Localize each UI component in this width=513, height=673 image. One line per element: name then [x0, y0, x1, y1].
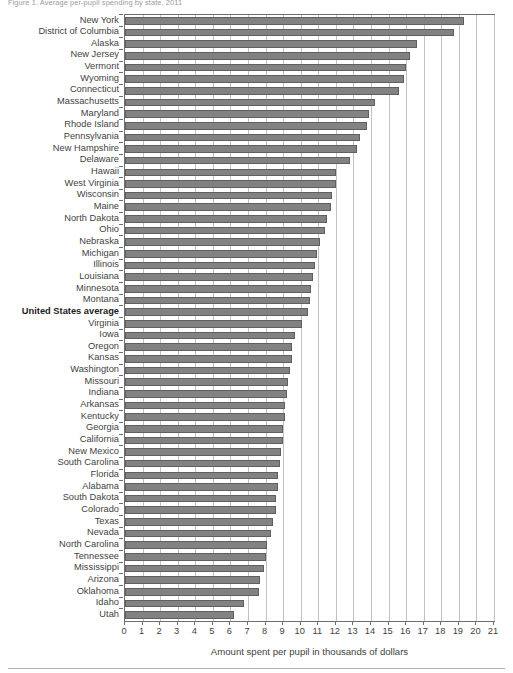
category-tick [119, 37, 123, 38]
x-tick-label: 11 [308, 626, 326, 637]
x-tick-mark [142, 621, 143, 625]
bar [125, 227, 325, 235]
category-tick [119, 550, 123, 551]
x-tick-label: 19 [449, 626, 467, 637]
category-label: New York [80, 15, 119, 25]
x-tick-mark [352, 621, 353, 625]
category-label: Maryland [81, 108, 119, 118]
x-tick-mark [194, 621, 195, 625]
category-label: Michigan [82, 248, 119, 258]
bar [125, 425, 283, 433]
category-tick [119, 503, 123, 504]
bar [125, 29, 454, 37]
category-label: South Carolina [57, 457, 119, 467]
bar [125, 518, 273, 526]
category-tick [119, 434, 123, 435]
category-label: Kansas [88, 352, 119, 362]
x-tick-mark [229, 621, 230, 625]
category-tick [119, 177, 123, 178]
category-tick [119, 399, 123, 400]
category-label: Kentucky [81, 411, 119, 421]
category-label: New Jersey [70, 49, 119, 59]
category-label: New Hampshire [53, 143, 119, 153]
x-tick-label: 6 [220, 626, 238, 637]
category-tick [119, 235, 123, 236]
bar [125, 588, 259, 596]
x-tick-mark [423, 621, 424, 625]
gridline [476, 15, 477, 621]
category-tick [119, 142, 123, 143]
x-axis-title: Amount spent per pupil in thousands of d… [124, 646, 495, 657]
bar [125, 273, 313, 281]
bar [125, 297, 310, 305]
bottom-divider [8, 668, 505, 669]
category-tick [119, 282, 123, 283]
bar [125, 332, 295, 340]
category-tick [119, 469, 123, 470]
category-tick [119, 84, 123, 85]
category-tick [119, 422, 123, 423]
category-tick [119, 480, 123, 481]
category-label: Arizona [87, 574, 119, 584]
bar [125, 99, 375, 107]
category-tick [119, 352, 123, 353]
category-tick [119, 26, 123, 27]
category-tick [119, 72, 123, 73]
category-label: Connecticut [70, 84, 119, 94]
category-label: Nebraska [79, 236, 119, 246]
category-tick [119, 608, 123, 609]
category-label: Washington [70, 364, 119, 374]
bar [125, 390, 287, 398]
category-label: Alabama [82, 481, 119, 491]
x-tick-label: 8 [256, 626, 274, 637]
category-label: Florida [91, 469, 119, 479]
x-tick-mark [388, 621, 389, 625]
x-tick-label: 20 [466, 626, 484, 637]
bar [125, 553, 266, 561]
plot-area [124, 14, 495, 622]
category-tick [119, 375, 123, 376]
category-tick [119, 96, 123, 97]
category-tick [119, 597, 123, 598]
bar [125, 355, 292, 363]
bar [125, 343, 292, 351]
category-label: Georgia [86, 422, 119, 432]
category-label: Texas [95, 516, 119, 526]
category-label: District of Columbia [38, 26, 119, 36]
x-axis: 0123456789101112131415161718192021 [124, 621, 495, 639]
x-tick-label: 7 [238, 626, 256, 637]
category-label: Massachusetts [57, 96, 119, 106]
bar [125, 238, 320, 246]
x-tick-mark [124, 621, 125, 625]
category-tick [119, 49, 123, 50]
x-tick-mark [370, 621, 371, 625]
category-label: Ohio [99, 224, 119, 234]
category-label: Virginia [88, 318, 119, 328]
category-tick [119, 340, 123, 341]
category-tick [119, 305, 123, 306]
gridline [406, 15, 407, 621]
bar [125, 367, 290, 375]
category-label: Wisconsin [77, 189, 119, 199]
category-label: Minnesota [76, 283, 119, 293]
bar [125, 413, 285, 421]
x-tick-mark [212, 621, 213, 625]
category-label: Idaho [96, 597, 119, 607]
category-label: California [80, 434, 119, 444]
category-label: Pennsylvania [64, 131, 119, 141]
category-label: Arkansas [80, 399, 119, 409]
x-tick-label: 21 [484, 626, 502, 637]
bar-chart-figure: Figure 1. Average per-pupil spending by … [0, 0, 513, 673]
bar [125, 495, 276, 503]
gridline [424, 15, 425, 621]
bar [125, 215, 327, 223]
x-tick-mark [159, 621, 160, 625]
category-tick [119, 585, 123, 586]
category-axis: New YorkDistrict of ColumbiaAlaskaNew Je… [0, 14, 122, 620]
chart-title: Figure 1. Average per-pupil spending by … [8, 0, 182, 7]
x-tick-label: 4 [185, 626, 203, 637]
category-tick [119, 562, 123, 563]
x-tick-label: 1 [133, 626, 151, 637]
category-label: United States average [22, 306, 119, 316]
category-tick [119, 270, 123, 271]
